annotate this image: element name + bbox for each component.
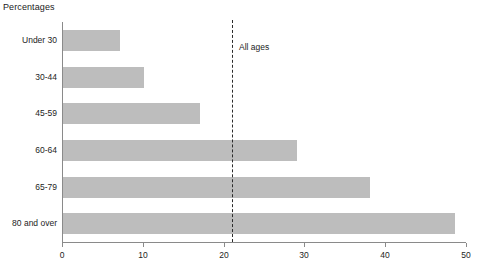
category-label: 45-59 xyxy=(0,109,57,119)
x-axis-tick-mark xyxy=(385,243,386,247)
reference-line xyxy=(232,20,233,242)
bar xyxy=(63,177,370,198)
category-label-text: 80 and over xyxy=(12,219,57,228)
y-axis-line xyxy=(62,22,63,242)
category-label-text: 45-59 xyxy=(35,109,57,118)
bar-chart: Percentages Under 3030-4445-5960-6465-79… xyxy=(0,0,481,273)
category-label: 60-64 xyxy=(0,146,57,156)
bar xyxy=(63,30,120,51)
x-axis-tick-label: 10 xyxy=(138,250,147,260)
x-axis-tick-label: 40 xyxy=(380,250,389,260)
category-label-text: 30-44 xyxy=(35,73,57,82)
x-axis-tick-label: 50 xyxy=(461,250,470,260)
x-axis-tick-mark xyxy=(466,243,467,247)
reference-line-label: All ages xyxy=(239,42,269,52)
x-axis-tick-mark xyxy=(224,243,225,247)
chart-title: Percentages xyxy=(3,2,55,12)
x-axis-tick-mark xyxy=(143,243,144,247)
bar xyxy=(63,67,144,88)
category-label-text: 65-79 xyxy=(35,183,57,192)
category-label: 65-79 xyxy=(0,183,57,193)
x-axis-line xyxy=(62,242,466,243)
category-label-text: Under 30 xyxy=(22,36,57,45)
category-label: Under 30 xyxy=(0,36,57,46)
bar xyxy=(63,103,200,124)
category-label-text: 60-64 xyxy=(35,146,57,155)
x-axis-tick-mark xyxy=(304,243,305,247)
bar xyxy=(63,140,297,161)
bar xyxy=(63,213,455,234)
x-axis-tick-label: 20 xyxy=(219,250,228,260)
x-axis-tick-label: 0 xyxy=(60,250,65,260)
category-label: 30-44 xyxy=(0,73,57,83)
category-label: 80 and over xyxy=(0,219,57,229)
x-axis-tick-label: 30 xyxy=(299,250,308,260)
x-axis-tick-mark xyxy=(62,243,63,247)
